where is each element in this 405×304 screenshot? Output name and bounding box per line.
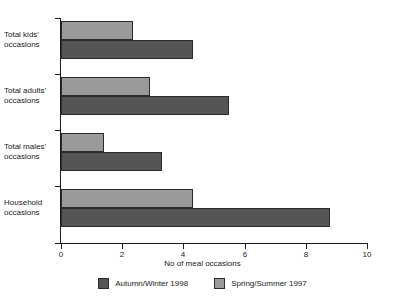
chart-legend: Autumn/Winter 1998 Spring/Summer 1997: [0, 278, 405, 289]
legend-label: Autumn/Winter 1998: [115, 279, 188, 289]
bar-adults-spring-summer-1997: [61, 77, 150, 96]
x-axis-title: No of meal occasions: [0, 259, 405, 269]
category-label-line: Household: [4, 198, 58, 208]
category-label-kids: Total kids' occasions: [4, 30, 58, 50]
legend-entry-spring-summer: Spring/Summer 1997: [214, 278, 307, 289]
category-label-line: occasions: [4, 96, 58, 106]
category-label-household: Household occasions: [4, 198, 58, 218]
bar-household-spring-summer-1997: [61, 189, 193, 208]
legend-swatch-icon: [214, 278, 225, 289]
bar-males-autumn-winter-1998: [61, 152, 162, 171]
x-axis-tick: [61, 244, 62, 249]
x-axis-tick: [367, 244, 368, 249]
category-label-line: Total adults': [4, 86, 58, 96]
category-label-line: Total kids': [4, 30, 58, 40]
x-axis-line: [60, 243, 368, 244]
bar-chart: Total kids' occasions Total adults' occa…: [0, 0, 405, 304]
bar-adults-autumn-winter-1998: [61, 96, 229, 115]
category-label-line: occasions: [4, 40, 58, 50]
bar-household-autumn-winter-1998: [61, 208, 330, 227]
x-axis-tick: [183, 244, 184, 249]
category-label-line: occasions: [4, 152, 58, 162]
x-axis-tick: [122, 244, 123, 249]
category-label-line: Total males': [4, 142, 58, 152]
bar-kids-autumn-winter-1998: [61, 40, 193, 59]
category-label-line: occasions: [4, 208, 58, 218]
legend-swatch-icon: [98, 278, 109, 289]
bar-males-spring-summer-1997: [61, 133, 104, 152]
category-label-adults: Total adults' occasions: [4, 86, 58, 106]
x-axis-tick: [306, 244, 307, 249]
legend-entry-autumn-winter: Autumn/Winter 1998: [98, 278, 188, 289]
category-label-males: Total males' occasions: [4, 142, 58, 162]
plot-area: [61, 18, 367, 243]
x-axis-tick: [245, 244, 246, 249]
bar-kids-spring-summer-1997: [61, 21, 133, 40]
legend-label: Spring/Summer 1997: [231, 279, 307, 289]
